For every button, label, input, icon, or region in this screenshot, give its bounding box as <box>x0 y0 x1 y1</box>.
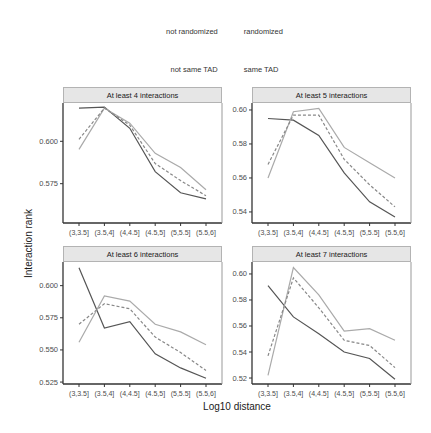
x-tick-label: (4,4.5] <box>309 390 329 398</box>
x-tick-label: (3,3.5] <box>258 229 278 237</box>
x-tick-label: (3.5,4] <box>283 390 303 398</box>
legend-item-not-randomized: not randomized <box>148 27 218 36</box>
x-tick-label: (5.5,6] <box>385 390 405 398</box>
y-tick-label: 0.600 <box>39 281 58 290</box>
panel-at-least-4: At least 4 interactions0.5750.600(3,3.5]… <box>23 87 224 249</box>
plot-area: 0.5750.600(3,3.5](3.5,4](4,4.5](4.5,5](5… <box>23 103 224 249</box>
facet-strip-title: At least 4 interactions <box>63 87 222 103</box>
plot-area: 0.5250.5500.5750.600(3,3.5](3.5,4](4,4.5… <box>23 262 224 410</box>
y-tick-label: 0.550 <box>39 345 58 354</box>
x-tick-label: (4,4.5] <box>120 229 140 237</box>
x-tick-label: (3.5,4] <box>283 229 303 237</box>
facet-strip-title: At least 7 interactions <box>252 246 411 262</box>
x-tick-label: (5,5.5] <box>360 229 380 237</box>
x-tick-label: (4,4.5] <box>120 390 140 398</box>
y-tick-label: 0.575 <box>39 179 58 188</box>
facet-strip-title: At least 6 interactions <box>63 246 222 262</box>
x-tick-label: (4,4.5] <box>309 229 329 237</box>
plot-area: 0.540.560.580.60(3,3.5](3.5,4](4,4.5](4.… <box>212 103 413 249</box>
y-axis-title: Interaction rank <box>23 209 34 279</box>
plot-area: 0.520.540.560.580.60(3,3.5](3.5,4](4,4.5… <box>212 262 413 410</box>
legend-linetype: not randomized randomized <box>0 27 431 36</box>
x-tick-label: (3,3.5] <box>69 229 89 237</box>
y-tick-label: 0.60 <box>232 105 247 114</box>
legend-label: same TAD <box>244 65 279 74</box>
y-tick-label: 0.56 <box>232 321 247 330</box>
y-tick-label: 0.575 <box>39 313 58 322</box>
x-tick-label: (5,5.5] <box>171 229 191 237</box>
y-tick-label: 0.58 <box>232 295 247 304</box>
facet-strip-title: At least 5 interactions <box>252 87 411 103</box>
y-tick-label: 0.56 <box>232 173 247 182</box>
legend-label: randomized <box>244 27 283 36</box>
y-tick-label: 0.54 <box>232 207 247 216</box>
x-tick-label: (4.5,5] <box>145 390 165 398</box>
x-tick-label: (5.5,6] <box>385 229 405 237</box>
y-tick-label: 0.600 <box>39 137 58 146</box>
x-tick-label: (5,5.5] <box>171 390 191 398</box>
x-tick-label: (4.5,5] <box>334 229 354 237</box>
y-tick-label: 0.52 <box>232 374 247 383</box>
x-tick-label: (3.5,4] <box>94 390 114 398</box>
x-tick-label: (3.5,4] <box>94 229 114 237</box>
legend-colour: not same TAD same TAD <box>0 65 431 74</box>
x-tick-label: (3,3.5] <box>69 390 89 398</box>
legend-item-not-same-tad: not same TAD <box>153 65 218 74</box>
x-tick-label: (4.5,5] <box>334 390 354 398</box>
y-tick-label: 0.60 <box>232 269 247 278</box>
legend-item-same-tad: same TAD <box>226 65 279 74</box>
panel-at-least-6: At least 6 interactions0.5250.5500.5750.… <box>23 246 224 410</box>
legend-label: not same TAD <box>171 65 218 74</box>
panel-at-least-7: At least 7 interactions0.520.540.560.580… <box>212 246 413 410</box>
legend-item-randomized: randomized <box>226 27 283 36</box>
x-tick-label: (4.5,5] <box>145 229 165 237</box>
x-tick-label: (3,3.5] <box>258 390 278 398</box>
panel-at-least-5: At least 5 interactions0.540.560.580.60(… <box>212 87 413 249</box>
x-tick-label: (5,5.5] <box>360 390 380 398</box>
y-tick-label: 0.525 <box>39 378 58 387</box>
legend-label: not randomized <box>166 27 218 36</box>
x-axis-title: Log10 distance <box>187 401 287 412</box>
y-tick-label: 0.54 <box>232 348 247 357</box>
y-tick-label: 0.58 <box>232 139 247 148</box>
